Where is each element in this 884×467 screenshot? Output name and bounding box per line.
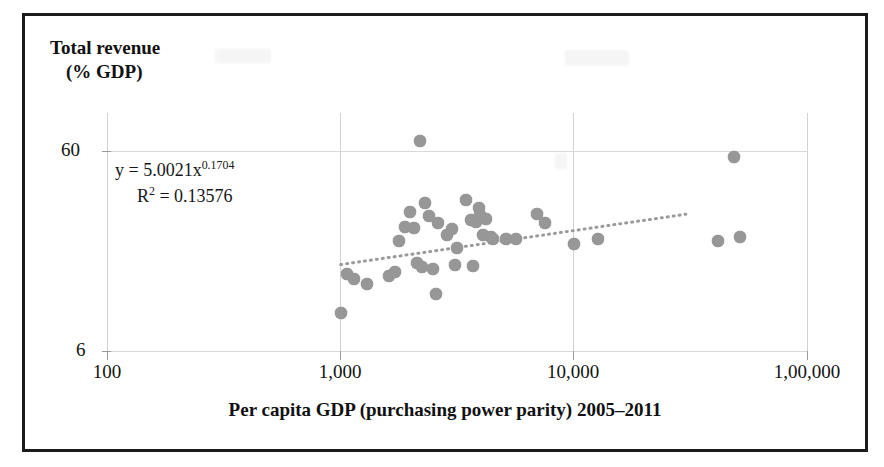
scatter-point	[426, 263, 439, 276]
scatter-point	[591, 232, 604, 245]
x-axis-title: Per capita GDP (purchasing power parity)…	[25, 399, 865, 421]
scatter-point	[430, 287, 443, 300]
scatter-point	[467, 259, 480, 272]
y-axis-title-line2: (% GDP)	[50, 60, 160, 84]
scatter-point	[432, 216, 445, 229]
gridline-x-100	[107, 113, 108, 351]
x-tick-label-100000: 1,00,000	[759, 361, 855, 383]
equation-base: y = 5.0021x	[115, 160, 202, 180]
x-tick-100	[107, 351, 108, 360]
x-tick-label-100: 100	[67, 361, 147, 383]
plot-area	[107, 113, 808, 351]
scatter-point	[459, 194, 472, 207]
scatter-point	[450, 241, 463, 254]
figure-root: 60 6 100 1,000 10,000 1,00,000 Total rev…	[0, 0, 884, 467]
scatter-point	[413, 135, 426, 148]
gridline-y-60	[107, 151, 808, 152]
equation-exponent: 0.1704	[202, 158, 235, 172]
x-tick-label-1000: 1,000	[300, 361, 380, 383]
scatter-point	[487, 232, 500, 245]
scatter-point	[711, 235, 724, 248]
y-axis-title: Total revenue (% GDP)	[50, 36, 160, 84]
x-tick-10000	[573, 351, 574, 360]
scan-smudge	[565, 50, 629, 66]
y-tick-label-6: 6	[76, 339, 86, 361]
r-squared-value: = 0.13576	[155, 186, 233, 206]
scatter-point	[539, 217, 552, 230]
gridline-y-6	[107, 351, 808, 352]
scatter-point	[404, 205, 417, 218]
scatter-point	[568, 237, 581, 250]
scatter-point	[408, 222, 421, 235]
scatter-point	[509, 232, 522, 245]
scatter-point	[733, 230, 746, 243]
y-axis-title-line1: Total revenue	[50, 37, 160, 58]
gridline-x-100000	[807, 113, 808, 351]
scatter-point	[388, 266, 401, 279]
scatter-point	[727, 151, 740, 164]
gridline-x-10000	[573, 113, 574, 351]
x-tick-1000	[340, 351, 341, 360]
scan-smudge	[215, 49, 271, 63]
x-tick-label-10000: 10,000	[533, 361, 613, 383]
x-tick-100000	[807, 351, 808, 360]
regression-annotation: y = 5.0021x0.1704 R2 = 0.13576	[115, 157, 234, 209]
r-squared: R2 = 0.13576	[115, 183, 234, 209]
scatter-point	[392, 235, 405, 248]
scatter-point	[479, 213, 492, 226]
scatter-point	[448, 259, 461, 272]
figure-frame: 60 6 100 1,000 10,000 1,00,000 Total rev…	[22, 13, 868, 452]
y-tick-label-60: 60	[61, 139, 80, 161]
scatter-point	[361, 277, 374, 290]
r-squared-symbol: R	[137, 186, 149, 206]
scatter-point	[419, 196, 432, 209]
y-tick-60	[102, 151, 111, 152]
scatter-point	[348, 272, 361, 285]
regression-equation: y = 5.0021x0.1704	[115, 160, 234, 180]
scatter-point	[334, 306, 347, 319]
scatter-point	[446, 223, 459, 236]
